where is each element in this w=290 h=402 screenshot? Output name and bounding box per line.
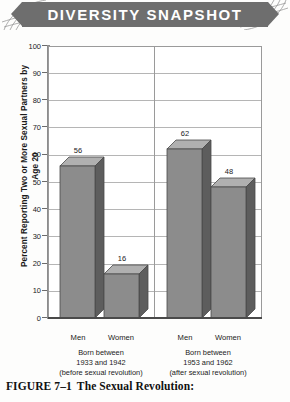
bar-value-group1-men: 56 [58,146,98,155]
gridline-60 [49,155,261,156]
y-tick-20: 20 [15,259,41,268]
gridline-80 [49,100,261,101]
y-tick-30: 30 [15,232,41,241]
y-tick-100: 100 [15,42,41,51]
banner-plate: DIVERSITY SNAPSHOT [22,2,268,27]
y-tick-50: 50 [15,178,41,187]
gridline-70 [49,127,261,128]
bar-group1-women [104,265,150,335]
bar-group2-women [211,178,257,328]
figure-caption-text: The Sexual Revolution: [77,380,194,392]
bar-chart: Percent Reporting Two or More Sexual Par… [0,30,290,375]
gridline-90 [49,73,261,74]
bar-group2-men [167,140,213,330]
y-tick-80: 80 [15,96,41,105]
group2-caption-line1: Born between [143,348,273,358]
y-tick-0: 0 [15,314,41,323]
y-tick-60: 60 [15,150,41,159]
group2-caption: Born between 1953 and 1962 (after sexual… [143,348,273,378]
x-label-group2-men: Men [163,333,207,342]
group2-caption-line3: (after sexual revolution) [143,368,273,378]
x-label-group1-men: Men [56,333,100,342]
figure-number: FIGURE 7–1 [6,380,72,392]
group-divider-line [154,46,155,318]
y-tick-90: 90 [15,69,41,78]
x-label-group2-women: Women [206,333,250,342]
banner-title: DIVERSITY SNAPSHOT [47,6,242,23]
x-axis-baseline [48,317,262,319]
y-tick-10: 10 [15,286,41,295]
bar-value-group2-women: 48 [209,167,249,176]
bar-group1-men [60,157,106,327]
figure-caption: FIGURE 7–1The Sexual Revolution: [6,380,286,392]
diversity-snapshot-banner: DIVERSITY SNAPSHOT [0,0,290,30]
y-tick-70: 70 [15,123,41,132]
y-tick-40: 40 [15,205,41,214]
y-axis-tick-labels: 100 90 80 70 60 50 40 30 20 10 0 [9,30,41,330]
bar-value-group2-men: 62 [165,129,205,138]
bar-value-group1-women: 16 [102,254,142,263]
x-label-group1-women: Women [99,333,143,342]
group2-caption-line2: 1953 and 1962 [143,358,273,368]
